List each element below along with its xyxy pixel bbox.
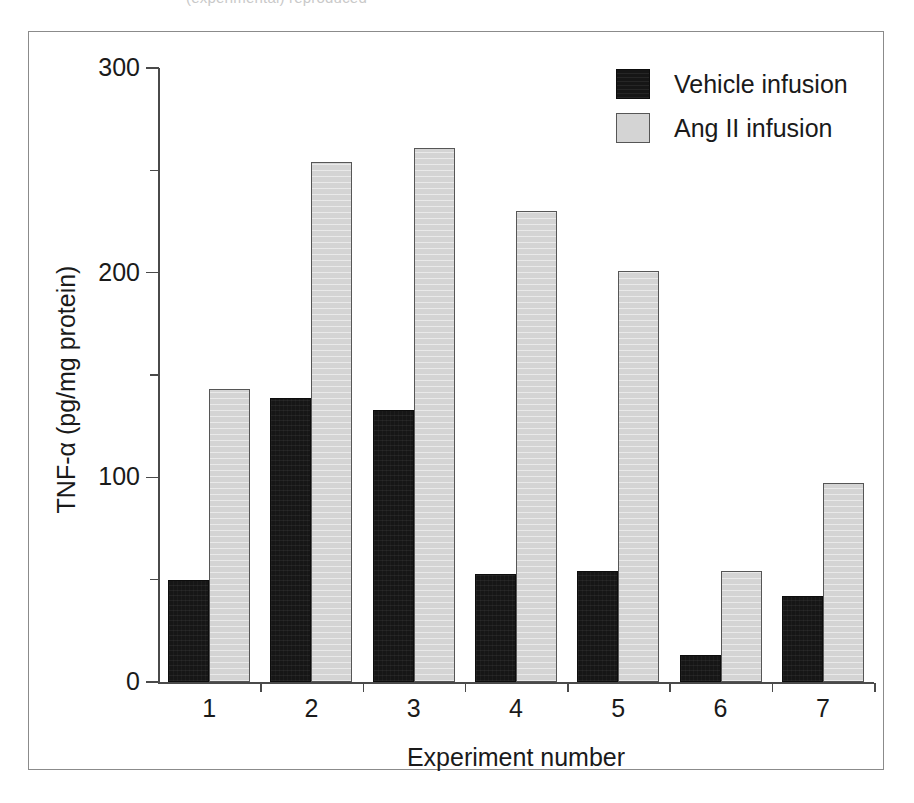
legend-entry-angii: Ang II infusion <box>616 106 886 150</box>
legend-entry-vehicle: Vehicle infusion <box>616 62 886 106</box>
bar-angii-exp7 <box>823 483 864 682</box>
y-tick-label: 300 <box>40 55 140 80</box>
chart-legend: Vehicle infusion Ang II infusion <box>616 62 886 150</box>
angii-swatch-icon <box>616 113 650 143</box>
y-tick-major <box>146 67 159 69</box>
x-tick-label-2: 2 <box>281 694 341 723</box>
bar-angii-exp5 <box>618 271 659 682</box>
x-tick-label-5: 5 <box>588 694 648 723</box>
y-tick-major <box>146 477 159 479</box>
x-tick-label-3: 3 <box>384 694 444 723</box>
bar-angii-exp6 <box>721 571 762 682</box>
x-tick-label-1: 1 <box>179 694 239 723</box>
x-tick <box>874 683 876 692</box>
x-tick <box>567 683 569 692</box>
bar-vehicle-exp1 <box>168 580 209 682</box>
x-tick-label-7: 7 <box>793 694 853 723</box>
x-tick <box>772 683 774 692</box>
bar-vehicle-exp3 <box>373 410 414 682</box>
bar-vehicle-exp7 <box>782 596 823 682</box>
y-tick-minor <box>150 170 159 172</box>
y-tick-major <box>146 272 159 274</box>
bar-angii-exp2 <box>311 162 352 682</box>
bar-vehicle-exp5 <box>577 571 618 682</box>
legend-label-angii: Ang II infusion <box>674 114 832 143</box>
x-axis-line <box>158 682 874 684</box>
vehicle-swatch-icon <box>616 69 650 99</box>
y-tick-minor <box>150 374 159 376</box>
x-tick-label-6: 6 <box>691 694 751 723</box>
x-tick <box>465 683 467 692</box>
y-tick-minor <box>150 579 159 581</box>
bar-vehicle-exp6 <box>680 655 721 682</box>
bar-vehicle-exp4 <box>475 574 516 682</box>
x-tick <box>260 683 262 692</box>
legend-label-vehicle: Vehicle infusion <box>674 70 848 99</box>
x-tick <box>363 683 365 692</box>
x-axis-title: Experiment number <box>158 743 874 772</box>
y-axis-title: TNF-α (pg/mg protein) <box>52 220 81 560</box>
bar-angii-exp4 <box>516 211 557 682</box>
y-tick-label: 0 <box>40 669 140 694</box>
x-tick <box>669 683 671 692</box>
bar-chart: 0100200300 TNF-α (pg/mg protein) 1234567… <box>0 0 914 803</box>
x-tick-label-4: 4 <box>486 694 546 723</box>
bar-angii-exp1 <box>209 389 250 682</box>
y-tick-major <box>146 681 159 683</box>
bar-vehicle-exp2 <box>270 398 311 682</box>
bar-angii-exp3 <box>414 148 455 682</box>
